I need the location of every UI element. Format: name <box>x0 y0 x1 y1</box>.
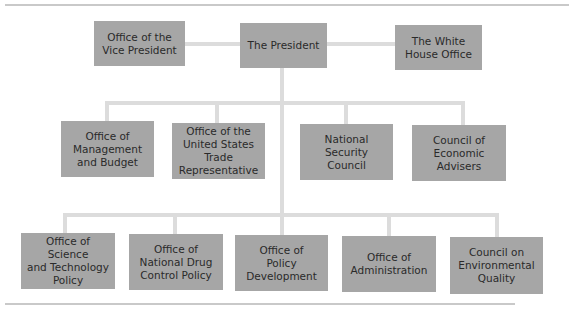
box-label: Office of Science and Technology Policy <box>24 235 112 287</box>
box-president: The President <box>240 23 327 68</box>
box-national-security-council: National Security Council <box>300 124 393 180</box>
box-economic-advisers: Council of Economic Advisers <box>412 125 506 181</box>
top-rule <box>5 4 569 6</box>
box-administration: Office of Administration <box>342 236 436 292</box>
box-science-technology: Office of Science and Technology Policy <box>21 233 115 289</box>
box-label: Office of National Drug Control Policy <box>140 243 213 282</box>
box-label: The White House Office <box>405 35 472 61</box>
connector-row2-drop-2 <box>215 101 219 124</box>
bottom-rule <box>5 303 515 305</box>
box-management-budget: Office of Management and Budget <box>61 121 154 177</box>
box-label: Office of the Vice President <box>102 31 176 57</box>
box-vice-president: Office of the Vice President <box>94 21 185 66</box>
box-label: Office of Policy Development <box>246 244 317 283</box>
box-label: Office of the United States Trade Repres… <box>179 125 258 177</box>
box-label: Council of Economic Advisers <box>433 134 485 173</box>
box-trade-representative: Office of the United States Trade Repres… <box>172 123 265 179</box>
box-policy-development: Office of Policy Development <box>235 235 328 291</box>
connector-row2-drop-1 <box>105 101 109 122</box>
box-label: Council on Environmental Quality <box>458 246 534 285</box>
box-drug-control: Office of National Drug Control Policy <box>129 234 223 290</box>
box-label: Office of Administration <box>351 251 428 277</box>
box-label: The President <box>248 39 320 52</box>
connector-row3-horizontal <box>63 213 499 217</box>
connector-row3-drop-5 <box>495 213 499 238</box>
box-label: National Security Council <box>325 133 369 172</box>
connector-row2-horizontal <box>105 101 465 105</box>
box-environmental-quality: Council on Environmental Quality <box>450 237 543 294</box>
box-white-house-office: The White House Office <box>395 25 482 70</box>
box-label: Office of Management and Budget <box>73 130 142 169</box>
connector-president-vertical <box>280 68 284 235</box>
connector-row2-drop-4 <box>461 101 465 126</box>
connector-row3-drop-1 <box>63 213 67 234</box>
connector-row3-drop-4 <box>387 213 391 237</box>
connector-row2-drop-3 <box>344 101 348 125</box>
connector-row3-drop-2 <box>173 213 177 235</box>
